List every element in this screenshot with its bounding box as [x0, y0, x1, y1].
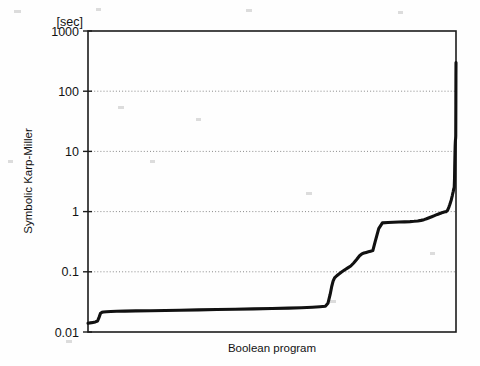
scan-speck [430, 252, 435, 255]
ytick-label-group: 10001001010.10.01 [51, 25, 79, 340]
ytick-label: 1 [72, 205, 79, 219]
scan-speck [306, 192, 312, 195]
y-unit-label: [sec] [57, 15, 83, 29]
scan-speck [398, 11, 403, 14]
scan-speck [330, 300, 336, 303]
ytick-label: 100 [58, 85, 79, 99]
x-axis-title: Boolean program [228, 342, 316, 354]
gridline-group [88, 91, 456, 272]
ytick-label: 0.01 [55, 326, 79, 340]
scan-noise-layer [8, 8, 435, 343]
scan-speck [96, 8, 101, 11]
scan-speck [8, 160, 13, 163]
scan-speck [66, 340, 72, 343]
ytick-label: 10 [65, 145, 79, 159]
y-axis-title: Symbolic Karp-Miller [22, 128, 34, 234]
figure-container: 10001001010.10.01 [sec] Boolean program … [0, 0, 480, 366]
scan-speck [196, 118, 201, 121]
data-series-symbolic-karp-miller [88, 62, 456, 323]
scan-speck [118, 106, 124, 109]
chart-canvas: 10001001010.10.01 [sec] Boolean program … [0, 0, 480, 366]
plot-frame [88, 31, 456, 332]
scan-speck [246, 9, 252, 12]
scan-speck [14, 10, 21, 13]
ytick-label: 0.1 [62, 265, 79, 279]
scan-speck [150, 160, 155, 163]
